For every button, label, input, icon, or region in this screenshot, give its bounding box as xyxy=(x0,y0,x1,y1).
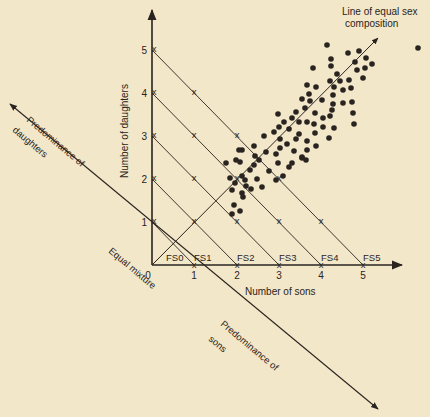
x-axis-title: Number of sons xyxy=(245,286,316,297)
svg-text:x: x xyxy=(319,215,324,226)
grid-markers: x x x x x x x x x x x x x x x x x x x x xyxy=(152,43,366,270)
svg-text:5: 5 xyxy=(360,270,366,281)
svg-text:4: 4 xyxy=(318,270,324,281)
svg-text:x: x xyxy=(192,172,197,183)
svg-text:x: x xyxy=(277,215,282,226)
svg-text:x: x xyxy=(152,172,157,183)
scatter-points xyxy=(223,42,421,217)
svg-text:x: x xyxy=(152,86,157,97)
svg-text:FS5: FS5 xyxy=(363,252,380,263)
y-axis-title: Number of daughters xyxy=(119,84,130,178)
svg-text:4: 4 xyxy=(141,88,147,99)
svg-text:FS2: FS2 xyxy=(237,252,254,263)
svg-text:x: x xyxy=(235,129,240,140)
y-tick-labels: 1 2 3 4 5 xyxy=(141,45,147,228)
diagram: x x x x x x x x x x x x x x x x x x x x … xyxy=(0,0,430,417)
svg-text:x: x xyxy=(152,43,157,54)
line-title-2: composition xyxy=(345,18,398,29)
svg-text:1: 1 xyxy=(141,217,147,228)
svg-text:FS1: FS1 xyxy=(194,252,211,263)
svg-text:x: x xyxy=(152,129,157,140)
svg-text:5: 5 xyxy=(141,45,147,56)
svg-text:x: x xyxy=(192,86,197,97)
svg-text:1: 1 xyxy=(191,270,197,281)
svg-text:x: x xyxy=(235,215,240,226)
equal-mixture-label: Equal mixture xyxy=(107,245,159,291)
svg-text:x: x xyxy=(192,129,197,140)
x-tick-labels: 0 1 2 3 4 5 xyxy=(145,270,366,281)
svg-text:FS3: FS3 xyxy=(279,252,296,263)
svg-text:2: 2 xyxy=(234,270,240,281)
svg-text:2: 2 xyxy=(141,174,147,185)
svg-text:3: 3 xyxy=(276,270,282,281)
family-size-labels: FS0 FS1 FS2 FS3 FS4 FS5 xyxy=(166,252,380,263)
svg-text:3: 3 xyxy=(141,131,147,142)
line-title-1: Line of equal sex xyxy=(342,6,418,17)
svg-text:FS0: FS0 xyxy=(166,252,183,263)
svg-text:FS4: FS4 xyxy=(321,252,338,263)
predominance-sons-2: sons xyxy=(207,333,230,354)
